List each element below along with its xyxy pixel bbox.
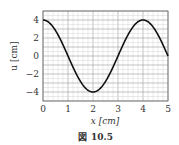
chart: 0 1 2 3 4 5 4 2 0 −2 −4 x [cm] u [cm] 図 … (0, 0, 179, 145)
figure-caption: 図 10.5 (78, 132, 113, 142)
y-tick-labels: 4 2 0 −2 −4 (26, 15, 40, 97)
x-tick-labels: 0 1 2 3 4 5 (40, 104, 171, 114)
figure-number: 10.5 (91, 132, 113, 142)
x-tick: 4 (140, 104, 146, 114)
x-tick: 3 (115, 104, 121, 114)
figure-kanji-icon: 図 (78, 132, 87, 142)
plot-grid (43, 11, 168, 101)
x-tick: 0 (40, 104, 46, 114)
y-tick: 0 (33, 51, 39, 61)
y-tick: −2 (26, 69, 39, 79)
x-axis-label: x [cm] (91, 116, 120, 126)
x-tick: 2 (90, 104, 96, 114)
y-tick: 4 (33, 15, 39, 25)
x-tick: 1 (65, 104, 71, 114)
x-tick: 5 (165, 104, 171, 114)
y-tick: 2 (33, 33, 39, 43)
y-axis-label: u [cm] (9, 41, 19, 70)
y-tick: −4 (26, 87, 40, 97)
